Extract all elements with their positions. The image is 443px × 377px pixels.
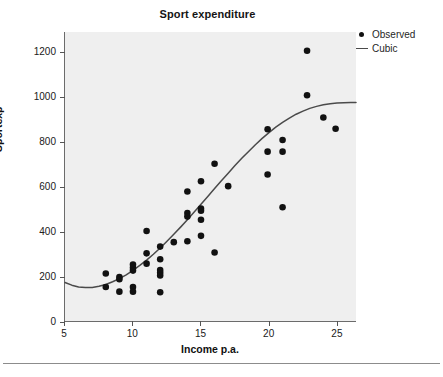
x-tick-label: 25 bbox=[317, 329, 357, 339]
data-point bbox=[103, 270, 110, 277]
x-axis-title: Income p.a. bbox=[64, 343, 356, 355]
data-point bbox=[264, 148, 271, 155]
chart-legend: Observed Cubic bbox=[352, 27, 440, 55]
data-point bbox=[184, 188, 191, 195]
x-tick-mark bbox=[337, 321, 338, 326]
data-point bbox=[184, 213, 191, 220]
data-point bbox=[157, 243, 164, 250]
x-tick-mark bbox=[64, 321, 65, 326]
y-tick-label: 800 bbox=[10, 137, 56, 147]
y-tick-mark bbox=[60, 97, 65, 98]
data-point bbox=[184, 238, 191, 245]
chart-title: Sport expenditure bbox=[64, 8, 351, 20]
data-point bbox=[198, 207, 205, 214]
x-tick-mark bbox=[132, 321, 133, 326]
cubic-fit-curve bbox=[65, 103, 356, 288]
data-point bbox=[143, 260, 150, 267]
data-point bbox=[130, 288, 137, 295]
data-point bbox=[304, 92, 311, 99]
y-tick-mark bbox=[60, 187, 65, 188]
x-tick-label: 5 bbox=[44, 329, 84, 339]
observed-points-group bbox=[103, 48, 339, 296]
data-point bbox=[157, 256, 164, 263]
y-tick-mark bbox=[60, 52, 65, 53]
data-point bbox=[225, 183, 232, 190]
data-point bbox=[198, 178, 205, 185]
legend-item-observed: Observed bbox=[352, 27, 440, 41]
data-point bbox=[116, 288, 123, 295]
y-tick-label: 200 bbox=[10, 272, 56, 282]
legend-item-cubic: Cubic bbox=[352, 41, 440, 55]
y-tick-label: 1200 bbox=[10, 47, 56, 57]
footer-divider bbox=[3, 363, 440, 364]
y-tick-mark bbox=[60, 232, 65, 233]
x-tick-mark bbox=[269, 321, 270, 326]
data-point bbox=[279, 137, 286, 144]
data-point bbox=[332, 125, 339, 132]
y-axis-title: Sportexp bbox=[0, 106, 4, 152]
chart-figure: Sport expenditure Observed Cubic 0200400… bbox=[0, 0, 443, 377]
data-point bbox=[157, 272, 164, 279]
x-tick-label: 10 bbox=[112, 329, 152, 339]
x-tick-label: 15 bbox=[180, 329, 220, 339]
y-tick-label: 1000 bbox=[10, 92, 56, 102]
data-point bbox=[279, 148, 286, 155]
data-point bbox=[264, 126, 271, 133]
y-tick-mark bbox=[60, 277, 65, 278]
data-point bbox=[143, 250, 150, 257]
data-point bbox=[198, 216, 205, 223]
data-point bbox=[304, 48, 311, 55]
data-point bbox=[170, 239, 177, 246]
data-point bbox=[264, 171, 271, 178]
y-tick-label: 400 bbox=[10, 227, 56, 237]
x-tick-label: 20 bbox=[249, 329, 289, 339]
data-point bbox=[157, 289, 164, 296]
plot-canvas bbox=[65, 32, 356, 321]
data-point bbox=[211, 160, 218, 167]
x-tick-mark bbox=[200, 321, 201, 326]
plot-area bbox=[64, 32, 356, 322]
legend-label-cubic: Cubic bbox=[370, 43, 398, 54]
data-point bbox=[198, 233, 205, 240]
legend-label-observed: Observed bbox=[370, 29, 415, 40]
data-point bbox=[103, 284, 110, 291]
data-point bbox=[320, 114, 327, 121]
data-point bbox=[143, 228, 150, 235]
data-point bbox=[130, 267, 137, 274]
y-tick-label: 0 bbox=[10, 317, 56, 327]
data-point bbox=[279, 204, 286, 211]
y-tick-mark bbox=[60, 142, 65, 143]
data-point bbox=[116, 276, 123, 283]
y-tick-label: 600 bbox=[10, 182, 56, 192]
data-point bbox=[211, 249, 218, 256]
